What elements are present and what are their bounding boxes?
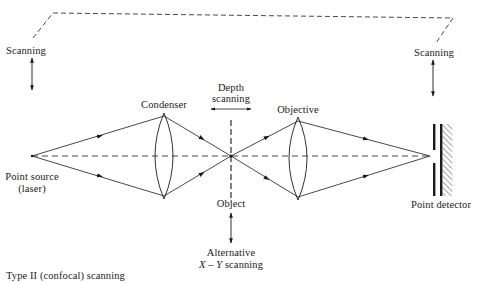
diagram-graphics (0, 0, 481, 283)
confocal-scanning-diagram: Scanning Scanning Condenser Depth scanni… (0, 0, 481, 283)
point-source (31, 155, 33, 157)
diagram-caption: Type II (confocal) scanning (6, 270, 125, 282)
label-point-source: Point source (5, 171, 58, 183)
rays-objective-to-detector (298, 121, 430, 197)
label-xy: X – Y (199, 259, 222, 270)
label-point-detector: Point detector (411, 199, 471, 211)
point-detector (433, 124, 452, 196)
label-object: Object (217, 198, 246, 210)
label-depth-scanning: scanning (212, 93, 250, 105)
label-xy-scanning: X – Y scanning (199, 259, 263, 271)
label-scanning-right: Scanning (414, 47, 454, 59)
rays-object-to-objective (231, 121, 298, 197)
label-laser: (laser) (18, 183, 46, 195)
focal-point (229, 154, 232, 157)
objective-lens (289, 117, 307, 200)
label-objective: Objective (277, 104, 319, 116)
scanning-linkage-dashed (33, 13, 453, 43)
label-scanning-left: Scanning (6, 45, 46, 57)
label-condenser: Condenser (141, 99, 187, 111)
label-xy-scanning-word: scanning (222, 259, 263, 270)
label-alternative: Alternative (207, 247, 255, 259)
